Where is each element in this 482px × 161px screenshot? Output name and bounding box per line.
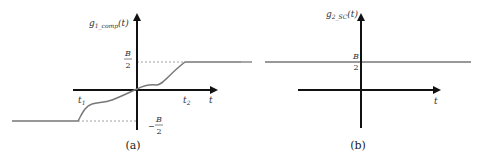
t1-label: t1: [78, 95, 85, 106]
y-axis-label-a: g1_comp(t): [89, 18, 129, 30]
panel-a: g1_comp(t) B 2 − B 2 t1 t2 t (a): [12, 15, 241, 152]
x-axis-label-b: t: [434, 96, 438, 106]
caption-b: (b): [350, 139, 366, 152]
upper-level-denominator: 2: [125, 61, 130, 70]
upper-level-numerator: B: [124, 49, 131, 58]
lower-level-numerator: B: [155, 115, 162, 124]
x-axis-label-a: t: [209, 95, 213, 105]
compensation-curve: [12, 62, 241, 121]
diagram-canvas: g1_comp(t) B 2 − B 2 t1 t2 t (a) g2_SC(t…: [0, 0, 482, 161]
y-axis-label-b: g2_SC(t): [326, 9, 358, 21]
level-denominator-b: 2: [353, 63, 358, 72]
level-numerator-b: B: [352, 52, 359, 61]
caption-a: (a): [125, 139, 140, 152]
lower-level-denominator: 2: [156, 127, 161, 136]
lower-level-sign: −: [148, 122, 155, 131]
panel-b: g2_SC(t) B 2 t (b): [241, 9, 471, 152]
t2-label: t2: [183, 95, 191, 106]
